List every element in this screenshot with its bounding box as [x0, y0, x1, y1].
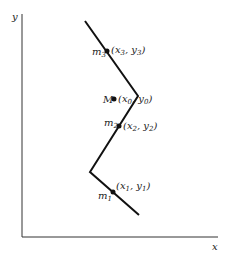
- point-m1: [111, 190, 116, 195]
- coord-M: (x0, y0): [118, 93, 153, 106]
- label-M: M: [102, 94, 114, 105]
- label-m2: m2: [104, 117, 118, 130]
- diagram: y x m3 (x3, y3) M (x0, y0) m2 (x2, y2) m…: [0, 0, 228, 259]
- coord-m3: (x3, y3): [111, 44, 146, 57]
- y-axis-label: y: [11, 11, 18, 22]
- label-m1: m1: [98, 190, 112, 203]
- x-axis-label: x: [212, 241, 218, 252]
- coord-m2: (x2, y2): [123, 120, 158, 133]
- coord-m1: (x1, y1): [116, 180, 151, 193]
